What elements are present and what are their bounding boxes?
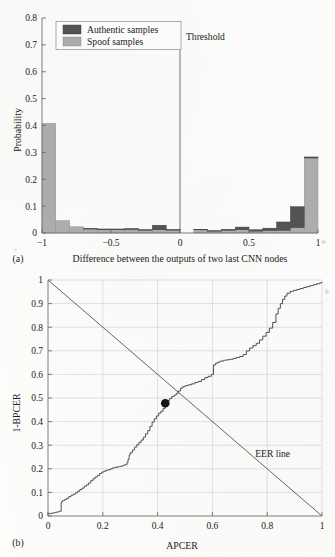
roc-x-tick-labels: 00.20.40.60.81	[46, 521, 325, 531]
bars-authentic-series	[83, 157, 318, 231]
roc-y-tick-label: 0.9	[31, 299, 43, 309]
histogram-x-tick-labels: −1−0.500.51	[37, 238, 321, 248]
histogram-y-tick-label: 0.7	[25, 40, 37, 50]
histogram-bar-spoof	[152, 230, 166, 233]
roc-y-tick-label: 0.2	[31, 464, 43, 474]
histogram-bar-spoof	[56, 221, 70, 233]
histogram-bar-spoof	[111, 230, 125, 233]
histogram-bar-authentic	[249, 230, 263, 231]
roc-y-tick-label: 0.4	[31, 417, 43, 427]
scan-speck	[14, 248, 17, 251]
eer-operating-point	[161, 399, 170, 408]
roc-x-tick-label: 0.8	[261, 521, 273, 531]
histogram-y-tick-label: 0.8	[25, 13, 37, 23]
roc-y-tick-label: 0.5	[31, 393, 43, 403]
histogram-y-tick-label: 0.3	[25, 148, 37, 158]
roc-y-tick-labels: 00.10.20.30.40.50.60.70.80.91	[31, 275, 43, 521]
legend-label-authentic: Authentic samples	[87, 24, 158, 35]
roc-y-tick-label: 0.1	[31, 488, 43, 498]
legend-swatch-authentic	[63, 25, 81, 34]
roc-y-tick-label: 0.6	[31, 370, 43, 380]
histogram-bar-authentic	[152, 225, 166, 230]
histogram-svg: −1−0.500.51 00.10.20.30.40.50.60.70.8 Th…	[0, 0, 335, 270]
roc-y-tick-label: 0.3	[31, 441, 43, 451]
histogram-bar-authentic	[166, 230, 180, 231]
roc-y-tick-label: 1	[38, 275, 43, 285]
roc-x-tick-label: 0.2	[97, 521, 109, 531]
scan-speck	[325, 289, 329, 294]
histogram-bar-authentic	[235, 227, 249, 230]
histogram-y-axis-title: Probability	[12, 108, 23, 152]
panel-a-label: (a)	[13, 253, 24, 265]
histogram-legend: Authentic samples Spoof samples	[56, 22, 181, 50]
roc-x-tick-label: 0.4	[152, 521, 164, 531]
scan-speck	[321, 240, 326, 244]
histogram-bar-spoof	[83, 229, 97, 233]
histogram-y-tick-label: 0.5	[25, 94, 37, 104]
roc-x-axis-title: APCER	[166, 540, 198, 551]
eer-line-label: EER line	[255, 448, 290, 459]
histogram-y-tick-label: 0	[32, 228, 37, 238]
histogram-bar-spoof	[42, 123, 56, 233]
panel-b-label: (b)	[12, 537, 23, 549]
roc-x-tick-label: 1	[320, 521, 325, 531]
histogram-bar-authentic	[139, 230, 153, 231]
histogram-x-tick-label: 1	[316, 238, 321, 248]
histogram-bar-spoof	[304, 158, 318, 233]
histogram-bar-spoof	[70, 227, 84, 233]
roc-svg: 00.20.40.60.81 00.10.20.30.40.50.60.70.8…	[0, 268, 335, 557]
histogram-bar-spoof	[290, 228, 304, 233]
histogram-bar-spoof	[97, 230, 111, 233]
histogram-x-tick-label: 0.5	[243, 238, 255, 248]
histogram-bar-authentic	[277, 222, 291, 230]
histogram-bar-authentic	[221, 229, 235, 230]
histogram-y-tick-label: 0.2	[25, 175, 37, 185]
histogram-bar-authentic	[304, 157, 318, 158]
threshold-label: Threshold	[186, 31, 225, 42]
histogram-x-tick-label: −1	[37, 238, 47, 248]
legend-swatch-spoof	[63, 37, 81, 46]
histogram-bar-spoof	[125, 230, 139, 233]
panel-b-roc: 00.20.40.60.81 00.10.20.30.40.50.60.70.8…	[0, 268, 335, 557]
histogram-y-tick-label: 0.4	[25, 121, 37, 131]
histogram-bar-spoof	[194, 230, 208, 233]
histogram-bar-authentic	[290, 207, 304, 228]
roc-y-tick-label: 0	[38, 511, 43, 521]
roc-x-tick-label: 0.6	[206, 521, 218, 531]
histogram-y-tick-label: 0.6	[25, 67, 37, 77]
legend-label-spoof: Spoof samples	[87, 36, 143, 47]
histogram-bar-authentic	[97, 229, 111, 230]
histogram-x-tick-label: 0	[178, 238, 183, 248]
roc-y-tick-label: 0.8	[31, 323, 43, 333]
histogram-bar-authentic	[125, 228, 139, 229]
histogram-x-axis-title: Difference between the outputs of two la…	[73, 253, 288, 264]
histogram-y-tick-label: 0.1	[25, 202, 37, 212]
roc-y-tick-label: 0.7	[31, 346, 43, 356]
roc-x-tick-label: 0	[46, 521, 51, 531]
histogram-y-tick-labels: 00.10.20.30.40.50.60.70.8	[25, 13, 37, 238]
histogram-x-tick-label: −0.5	[102, 238, 119, 248]
histogram-bar-authentic	[263, 228, 277, 230]
histogram-bar-authentic	[83, 228, 97, 229]
histogram-bar-authentic	[194, 229, 208, 230]
panel-a-histogram: −1−0.500.51 00.10.20.30.40.50.60.70.8 Th…	[0, 0, 335, 270]
histogram-bar-authentic	[208, 231, 222, 232]
roc-y-axis-title: 1-BPCER	[11, 393, 22, 433]
histogram-bar-authentic	[111, 229, 125, 230]
histogram-bar-spoof	[235, 230, 249, 233]
